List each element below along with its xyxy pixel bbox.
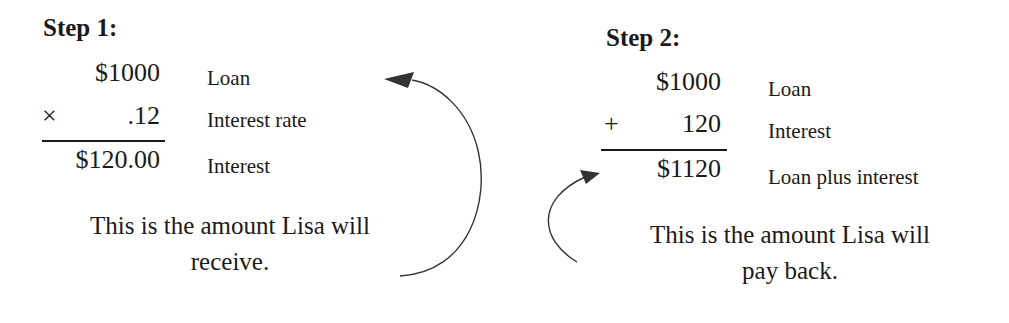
curved-arrow-icon-step2: [548, 170, 600, 262]
curved-arrow-icon-step1: [384, 72, 481, 276]
arrows-layer: [0, 0, 1009, 323]
